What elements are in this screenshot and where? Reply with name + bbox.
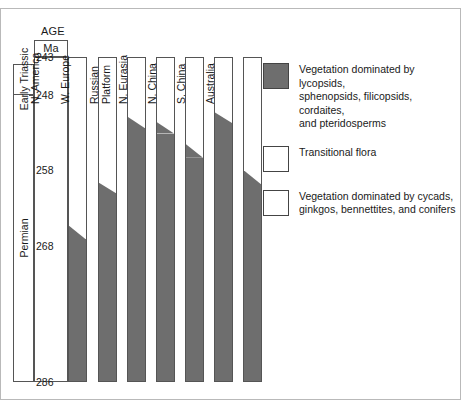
- transitional-flora-zone: [69, 170, 86, 226]
- legend-item: Transitional flora: [263, 145, 459, 175]
- transitional-flora-zone: [99, 144, 116, 183]
- lycopsid-flora-zone: [69, 239, 86, 382]
- legend-swatch-white: [263, 190, 289, 216]
- column-header-7: Australia: [205, 0, 257, 104]
- region-column-n-china[interactable]: [185, 57, 204, 382]
- region-column-russian-platform[interactable]: [127, 57, 146, 382]
- transitional-flora-zone: [215, 105, 232, 113]
- legend-label: Vegetation dominated by cycads, ginkgos,…: [299, 189, 459, 217]
- transitional-lycopsid-boundary: [69, 226, 86, 240]
- period-column: Early TriassicPermian: [13, 64, 34, 382]
- lycopsid-flora-zone: [157, 134, 174, 382]
- lycopsid-flora-zone: [99, 193, 116, 382]
- region-column-w-europe[interactable]: [98, 57, 117, 382]
- legend-label: Transitional flora: [299, 145, 459, 160]
- age-tick-label: 286: [36, 376, 68, 388]
- transitional-flora-zone: [244, 98, 261, 171]
- region-column-s-china[interactable]: [214, 57, 233, 382]
- legend-item: Vegetation dominated by cycads, ginkgos,…: [263, 189, 459, 219]
- lycopsid-flora-zone: [128, 128, 145, 382]
- region-column-n-eurasia[interactable]: [156, 57, 175, 382]
- age-tick-label: 258: [36, 164, 68, 176]
- stratigraphic-flora-chart: AGE Ma Early TriassicPermian 24324825826…: [0, 0, 463, 409]
- legend-label: Vegetation dominated by lycopsids, sphen…: [299, 62, 459, 131]
- transitional-lycopsid-boundary: [128, 117, 145, 128]
- transitional-lycopsid-boundary: [215, 112, 232, 123]
- cycad-transitional-boundary: [69, 161, 86, 170]
- transitional-lycopsid-boundary: [186, 144, 203, 158]
- age-scale-column: [34, 57, 68, 382]
- lycopsid-flora-zone: [215, 123, 232, 382]
- period-label: Permian: [18, 219, 30, 258]
- region-column-australia[interactable]: [243, 57, 262, 382]
- cycad-transitional-boundary: [99, 133, 116, 144]
- region-column-n-america[interactable]: [68, 57, 87, 382]
- legend-item: Vegetation dominated by lycopsids, sphen…: [263, 62, 459, 131]
- transitional-lycopsid-boundary: [244, 171, 261, 185]
- age-tick-label: 268: [36, 240, 68, 252]
- transitional-lycopsid-boundary: [157, 122, 174, 133]
- period-band: Permian: [14, 95, 33, 382]
- legend-swatch-dark: [263, 63, 289, 89]
- lycopsid-flora-zone: [186, 158, 203, 382]
- lycopsid-flora-zone: [244, 184, 261, 382]
- transitional-lycopsid-boundary: [99, 183, 116, 194]
- legend-swatch-stipple: [263, 146, 289, 172]
- legend: Vegetation dominated by lycopsids, sphen…: [263, 62, 459, 233]
